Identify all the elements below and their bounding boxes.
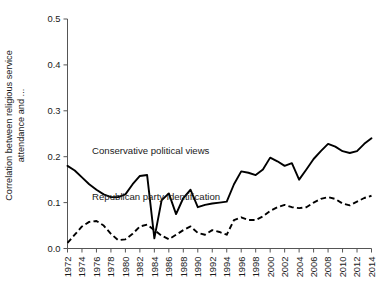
x-tick-label: 2002 [279,257,290,278]
x-tick-label: 1988 [178,257,189,278]
x-tick-label: 2004 [294,257,305,278]
x-tick-label: 1980 [120,257,131,278]
y-tick-label: 0.2 [47,151,60,162]
x-tick-label: 1986 [163,257,174,278]
x-tick-label: 2010 [337,257,348,278]
x-tick-label: 1984 [149,257,160,278]
series-annotations: Conservative political viewsRepublican p… [92,145,220,201]
x-axis-ticks: 1972197419761978198019821984198619881990… [62,249,377,278]
x-tick-label: 2014 [366,257,377,278]
y-tick-label: 0.4 [47,59,60,70]
x-tick-label: 1998 [250,257,261,278]
x-tick-label: 1990 [192,257,203,278]
x-tick-label: 2000 [265,257,276,278]
annotation-label: Republican party identification [92,191,220,202]
x-tick-label: 2012 [351,257,362,278]
x-tick-label: 1992 [207,257,218,278]
x-tick-label: 1976 [91,257,102,278]
x-tick-label: 1996 [236,257,247,278]
x-tick-label: 1978 [105,257,116,278]
y-tick-label: 0.1 [47,197,60,208]
x-tick-label: 1974 [76,257,87,278]
y-axis-ticks: 0.00.10.20.30.40.5 [47,13,67,254]
x-tick-label: 2008 [322,257,333,278]
plot-area: 0.00.10.20.30.40.5 197219741976197819801… [0,0,385,290]
x-tick-label: 1982 [134,257,145,278]
x-tick-label: 1972 [62,257,73,278]
y-tick-label: 0.3 [47,105,60,116]
y-tick-label: 0.0 [47,243,60,254]
annotation-label: Conservative political views [92,145,210,156]
chart-figure: Correlation between religious service at… [0,0,385,290]
x-tick-label: 2006 [308,257,319,278]
x-tick-label: 1994 [221,257,232,278]
y-tick-label: 0.5 [47,13,60,24]
